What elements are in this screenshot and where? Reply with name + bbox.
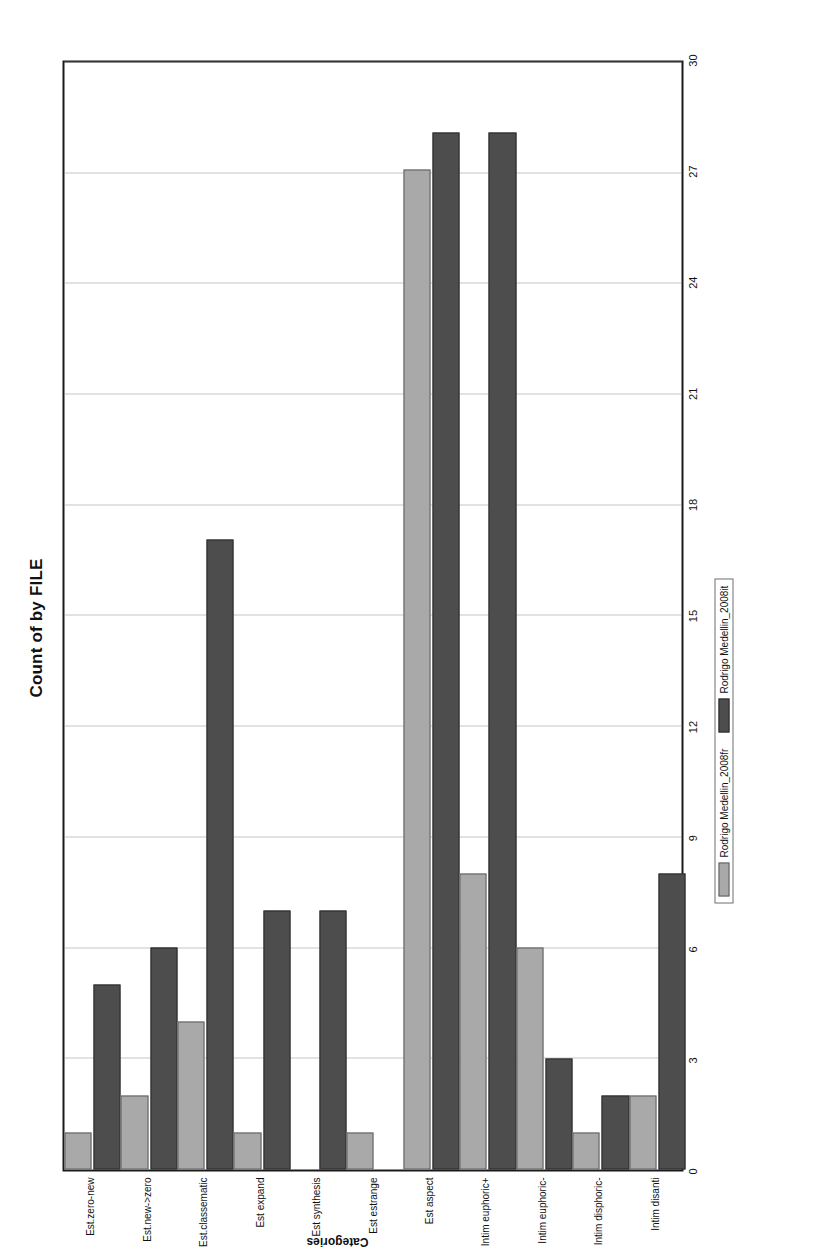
bar: [629, 1095, 656, 1169]
category-tick-label: Intim disphoric-: [593, 1177, 604, 1245]
bar-group: [516, 62, 572, 1169]
plot-area: [62, 60, 683, 1171]
bar-group: [64, 62, 120, 1169]
legend-label: Rodrigo Medellin_2008it: [718, 585, 729, 693]
bar: [403, 169, 430, 1169]
bar: [601, 1095, 628, 1169]
bar-group: [572, 62, 628, 1169]
bar-group: [290, 62, 346, 1169]
chart-canvas: Count of by FILE Est.zero-newEst.new->ze…: [0, 0, 813, 1255]
bar: [150, 947, 177, 1169]
bar: [658, 873, 685, 1169]
category-tick-label: Est.zero-new: [85, 1177, 96, 1235]
category-tick-label: Est.new->zero: [141, 1177, 152, 1241]
bar: [263, 910, 290, 1169]
value-tick-label: 27: [686, 165, 698, 177]
bar: [516, 947, 543, 1169]
bars-layer: [64, 62, 681, 1169]
bar-group: [403, 62, 459, 1169]
bar: [432, 132, 459, 1169]
bar: [319, 910, 346, 1169]
bar-group: [346, 62, 402, 1169]
category-tick-label: Est.classematic: [198, 1177, 209, 1246]
value-tick-label: 21: [686, 387, 698, 399]
bar: [120, 1095, 147, 1169]
category-tick-label: Est aspect: [423, 1177, 434, 1224]
bar: [233, 1132, 260, 1169]
bar: [177, 1021, 204, 1169]
bar: [346, 1132, 373, 1169]
bar: [93, 984, 120, 1169]
value-tick-label: 15: [686, 609, 698, 621]
category-axis-labels: Est.zero-newEst.new->zeroEst.classematic…: [62, 1171, 683, 1255]
bar-group: [459, 62, 515, 1169]
bar: [64, 1132, 91, 1169]
legend-item: Rodrigo Medellin_2008it: [718, 585, 729, 732]
value-tick-label: 30: [686, 54, 698, 66]
legend-item: Rodrigo Medellin_2008fr: [718, 748, 729, 896]
bar: [545, 1058, 572, 1169]
value-tick-label: 9: [686, 835, 698, 841]
legend-label: Rodrigo Medellin_2008fr: [718, 748, 729, 857]
bar-group: [629, 62, 685, 1169]
value-tick-label: 0: [686, 1168, 698, 1174]
category-tick-label: Intim disanti: [649, 1177, 660, 1230]
value-tick-label: 3: [686, 1057, 698, 1063]
value-tick-label: 6: [686, 946, 698, 952]
category-tick-label: Est estrange: [367, 1177, 378, 1233]
chart-title: Count of by FILE: [26, 0, 46, 1255]
bar: [572, 1132, 599, 1169]
value-tick-label: 18: [686, 498, 698, 510]
value-tick-label: 12: [686, 720, 698, 732]
value-axis-ticks: 036912151821242730: [686, 60, 714, 1171]
category-axis-title: Categories: [306, 1235, 368, 1249]
chart-legend: Rodrigo Medellin_2008fr Rodrigo Medellin…: [714, 578, 733, 903]
category-tick-label: Est synthesis: [311, 1177, 322, 1236]
category-tick-label: Est expand: [254, 1177, 265, 1227]
bar-group: [120, 62, 176, 1169]
dark-gray-swatch-icon: [718, 698, 729, 732]
category-tick-label: Intim euphoric+: [480, 1177, 491, 1246]
bar: [459, 873, 486, 1169]
category-tick-label: Intim euphoric-: [536, 1177, 547, 1243]
bar: [488, 132, 515, 1169]
bar-group: [233, 62, 289, 1169]
value-tick-label: 24: [686, 276, 698, 288]
bar-group: [177, 62, 233, 1169]
bar: [206, 539, 233, 1169]
light-gray-swatch-icon: [718, 862, 729, 896]
